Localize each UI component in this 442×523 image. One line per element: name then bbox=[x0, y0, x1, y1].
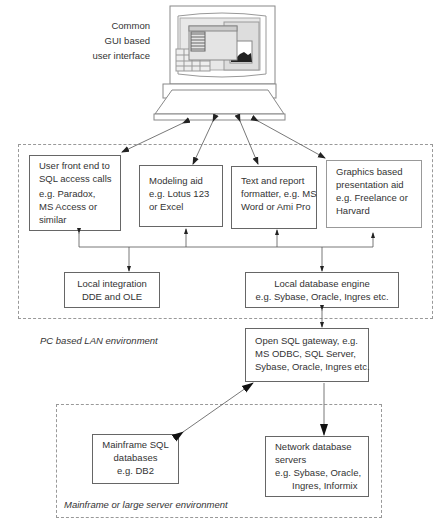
connector-arrows bbox=[0, 0, 442, 523]
